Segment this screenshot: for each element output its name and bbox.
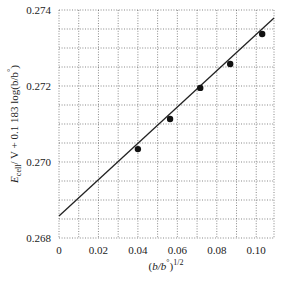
data-point [197, 85, 203, 91]
x-tick-label: 0.06 [168, 244, 188, 256]
x-tick-label: 0.08 [207, 244, 227, 256]
x-axis-title: (b/b°)1/2 [149, 258, 184, 273]
y-tick-label: 0.268 [26, 232, 51, 244]
y-tick-label: 0.274 [26, 4, 51, 16]
x-tick-label: 0.04 [128, 244, 148, 256]
data-point [227, 61, 233, 67]
data-point [167, 116, 173, 122]
tick-labels: 00.020.040.060.080.100.2680.2700.2720.27… [26, 4, 266, 256]
data-point [135, 146, 141, 152]
chart: 00.020.040.060.080.100.2680.2700.2720.27… [0, 0, 281, 281]
y-tick-label: 0.272 [26, 80, 51, 92]
x-tick-label: 0 [56, 244, 62, 256]
x-tick-label: 0.10 [247, 244, 267, 256]
y-tick-label: 0.270 [26, 156, 51, 168]
data-point [259, 31, 265, 37]
grid [59, 10, 274, 238]
y-axis-title: Ecell/ V + 0.1 183 log(b/b°) [6, 65, 23, 184]
x-tick-label: 0.02 [89, 244, 108, 256]
